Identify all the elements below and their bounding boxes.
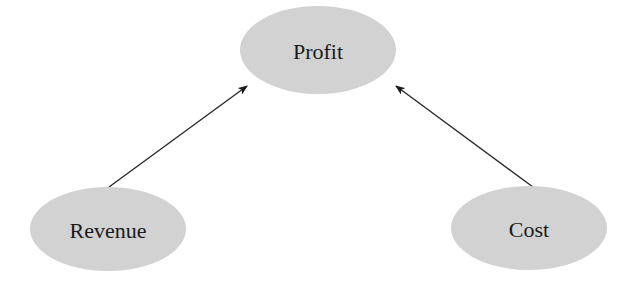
- node-cost-label: Cost: [509, 217, 549, 242]
- arrow-cost-to-profit: [396, 86, 533, 187]
- node-cost: Cost: [451, 186, 607, 270]
- node-revenue-label: Revenue: [70, 218, 147, 243]
- node-profit-label: Profit: [293, 39, 343, 64]
- node-profit: Profit: [240, 6, 396, 94]
- arrow-revenue-to-profit: [109, 86, 247, 187]
- node-revenue: Revenue: [30, 187, 186, 271]
- diagram-canvas: Profit Revenue Cost: [0, 0, 637, 286]
